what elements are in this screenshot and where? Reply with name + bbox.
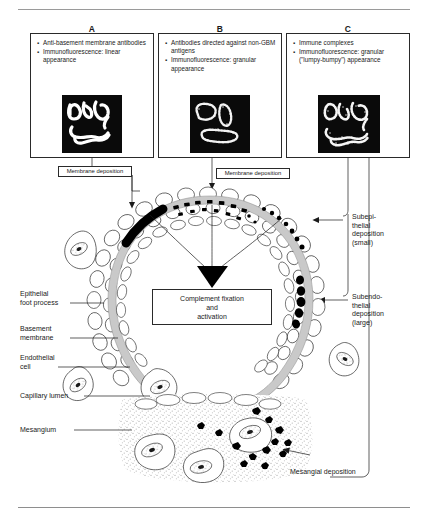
membrane-deposition-left-text: Membrane deposition	[67, 168, 124, 174]
mesangial-deposition-label: Mesangial deposition	[290, 468, 400, 477]
glomerular-capillary-diagram	[0, 0, 421, 530]
endothelial-cell-label: Endothelial cell	[20, 354, 76, 371]
subendothelial-line-4: (large)	[352, 319, 410, 328]
subendothelial-line-2: thelial	[352, 302, 410, 311]
endothelial-cell-line-2: cell	[20, 363, 76, 372]
endothelial-cell-line-1: Endothelial	[20, 354, 76, 363]
membrane-deposition-left-label: Membrane deposition	[58, 166, 132, 177]
epithelial-foot-process-line-1: Epithelial	[20, 290, 76, 299]
basement-membrane-line-1: Basement	[20, 325, 76, 334]
complement-fixation-box: Complement fixation and activation	[152, 289, 272, 325]
membrane-deposition-right-text: Membrane deposition	[225, 170, 282, 176]
subepithelial-line-4: (small)	[352, 239, 410, 248]
mesangium-label: Mesangium	[20, 426, 90, 435]
basement-membrane-label: Basement membrane	[20, 325, 76, 342]
epithelial-foot-process-label: Epithelial foot process	[20, 290, 76, 307]
subendothelial-line-3: deposition	[352, 310, 410, 319]
subepithelial-line-3: deposition	[352, 230, 410, 239]
epithelial-foot-process-line-2: foot process	[20, 299, 76, 308]
complement-line-2: and	[180, 303, 244, 312]
membrane-deposition-right-label: Membrane deposition	[216, 168, 290, 179]
subepithelial-line-2: thelial	[352, 222, 410, 231]
subendothelial-line-1: Subendo-	[352, 293, 410, 302]
subepithelial-deposition-label: Subepi- thelial deposition (small)	[352, 213, 410, 247]
subepithelial-line-1: Subepi-	[352, 213, 410, 222]
complement-big-arrowhead	[197, 266, 228, 288]
complement-line-1: Complement fixation	[180, 294, 244, 303]
complement-line-3: activation	[180, 312, 244, 321]
capillary-lumen-label: Capillary lumen	[20, 392, 90, 401]
basement-membrane-line-2: membrane	[20, 334, 76, 343]
subendothelial-deposition-label: Subendo- thelial deposition (large)	[352, 293, 410, 327]
